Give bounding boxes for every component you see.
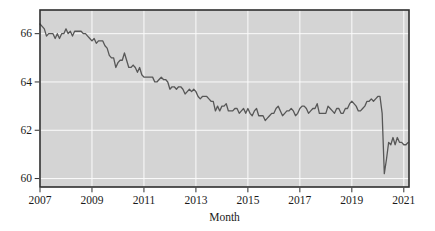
- y-tick-label: 60: [21, 172, 33, 184]
- x-tick-label: 2015: [236, 194, 259, 206]
- plot-background: [40, 10, 409, 187]
- y-tick-label: 62: [21, 124, 33, 136]
- x-tick-label: 2017: [288, 194, 311, 206]
- x-tick-label: 2021: [392, 194, 415, 206]
- x-tick-label: 2009: [80, 194, 103, 206]
- y-tick-label: 66: [21, 27, 33, 39]
- x-tick-label: 2007: [29, 194, 52, 206]
- x-tick-label: 2013: [184, 194, 207, 206]
- x-tick-label: 2019: [340, 194, 363, 206]
- line-chart: 2007200920112013201520172019202160626466…: [0, 0, 435, 231]
- figure: 2007200920112013201520172019202160626466…: [0, 0, 435, 231]
- x-tick-label: 2011: [133, 194, 156, 206]
- x-axis-label: Month: [209, 211, 240, 223]
- y-tick-label: 64: [21, 76, 33, 88]
